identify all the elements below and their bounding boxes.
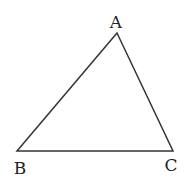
vertex-label-a: A — [109, 12, 123, 32]
vertex-label-c: C — [164, 155, 177, 175]
triangle-abc — [17, 33, 173, 151]
vertex-label-b: B — [14, 158, 27, 178]
triangle-diagram: A B C — [0, 0, 190, 189]
